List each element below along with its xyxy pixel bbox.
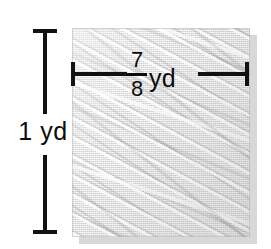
fraction-seven-eighths: 7 8 — [127, 49, 147, 100]
vertical-dimension-bottom-cap — [33, 230, 57, 234]
horizontal-dimension-left-stem — [73, 72, 127, 76]
vertical-dimension-upper-stem — [43, 31, 47, 114]
horizontal-dimension-right-cap — [245, 62, 249, 86]
figure-canvas: 1 yd 7 8 yd — [0, 0, 271, 249]
vertical-dimension-label: 1 yd — [12, 116, 74, 146]
horizontal-dimension-label: 7 8 yd — [127, 44, 176, 104]
fraction-numerator: 7 — [128, 49, 146, 72]
horizontal-dimension-unit: yd — [149, 65, 176, 91]
fraction-denominator: 8 — [128, 77, 146, 100]
vertical-dimension-lower-stem — [43, 155, 47, 232]
horizontal-dimension-right-stem — [198, 72, 247, 76]
